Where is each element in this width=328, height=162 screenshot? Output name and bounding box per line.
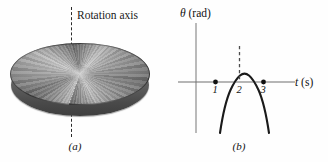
xtick-label-2: 2 (232, 84, 246, 95)
panel-a-disk-diagram: Rotation axis (a) (0, 0, 164, 162)
panel-b-theta-vs-time-graph: θ (rad) t (s) 1 2 3 (b) (164, 0, 328, 162)
t-symbol: t (295, 76, 298, 88)
xtick-label-1: 1 (208, 84, 222, 95)
t-unit: (s) (301, 76, 313, 88)
disk-illustration (10, 40, 151, 124)
xtick-label-3: 3 (256, 84, 270, 95)
theta-unit: (rad) (189, 7, 211, 19)
disk-top-face (10, 43, 150, 105)
theta-symbol: θ (180, 7, 186, 19)
theta-axis-label: θ (rad) (180, 7, 211, 19)
rotation-axis-label: Rotation axis (77, 9, 138, 22)
time-axis-label: t (s) (295, 76, 313, 88)
caption-b: (b) (194, 140, 284, 152)
caption-a: (a) (0, 140, 150, 152)
figure-root: Rotation axis (a) θ (rad) (0, 0, 328, 162)
